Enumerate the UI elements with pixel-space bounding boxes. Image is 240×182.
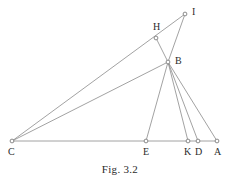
geometry-canvas — [0, 0, 240, 182]
geometry-figure: IHBCEKDA Fig. 3.2 — [0, 0, 240, 182]
segments-group — [12, 14, 217, 141]
vertex-label-e: E — [143, 147, 149, 157]
points-group — [10, 12, 219, 143]
figure-caption: Fig. 3.2 — [0, 163, 240, 175]
vertex-label-b: B — [175, 56, 182, 66]
vertex-label-k: K — [184, 147, 191, 157]
segment-B-D — [168, 62, 198, 141]
segment-B-K — [168, 62, 188, 141]
vertex-point-h — [154, 36, 158, 40]
vertex-point-c — [10, 139, 14, 143]
segment-B-A — [168, 62, 217, 141]
vertex-label-c: C — [8, 147, 15, 157]
vertex-label-h: H — [153, 22, 160, 32]
vertex-label-a: A — [214, 147, 221, 157]
vertex-point-e — [144, 139, 148, 143]
vertex-point-d — [196, 139, 200, 143]
vertex-point-i — [183, 12, 187, 16]
vertex-point-b — [166, 60, 170, 64]
vertex-label-d: D — [195, 147, 202, 157]
segment-C-B — [12, 62, 168, 141]
segment-B-E — [146, 62, 168, 141]
vertex-label-i: I — [192, 7, 195, 17]
vertex-point-a — [215, 139, 219, 143]
vertex-point-k — [186, 139, 190, 143]
segment-C-I — [12, 14, 185, 141]
segment-H-B — [156, 38, 168, 62]
